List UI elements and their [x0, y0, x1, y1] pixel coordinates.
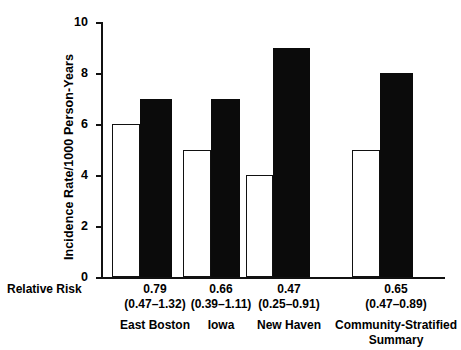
y-tick-label-6: 6: [81, 117, 88, 131]
group-annotation-3: 0.65(0.47–0.89)Community-Stratified Summ…: [326, 282, 461, 347]
bar-open-2: [246, 175, 273, 277]
y-tick-label-10: 10: [74, 15, 88, 29]
y-tick-10: 10: [96, 22, 101, 24]
x-axis-line: [101, 277, 445, 279]
y-axis-line: [101, 22, 103, 277]
bar-filled-2: [273, 48, 310, 278]
y-tick-4: 4: [96, 175, 101, 177]
y-tick-label-4: 4: [81, 168, 88, 182]
y-tick-8: 8: [96, 73, 101, 75]
bar-filled-1: [211, 99, 240, 278]
y-axis-title: Incidence Rate/1000 Person-Years: [62, 27, 76, 287]
y-tick-label-2: 2: [81, 219, 88, 233]
y-tick-2: 2: [96, 226, 101, 228]
y-tick-0: 0: [96, 277, 101, 279]
figure-caption: [18, 340, 258, 349]
y-tick-label-8: 8: [81, 66, 88, 80]
y-tick-6: 6: [96, 124, 101, 126]
bar-filled-0: [140, 99, 172, 278]
bar-filled-3: [380, 73, 413, 277]
confidence-interval-3: (0.47–0.89): [326, 297, 461, 312]
bar-open-0: [112, 124, 140, 277]
relative-risk-row-label: Relative Risk: [7, 282, 82, 296]
category-label-3: Community-Stratified Summary: [326, 318, 461, 347]
bar-open-3: [352, 150, 380, 278]
bar-open-1: [183, 150, 211, 278]
plot-area: 0246810: [101, 22, 445, 277]
relative-risk-value-3: 0.65: [326, 282, 461, 297]
